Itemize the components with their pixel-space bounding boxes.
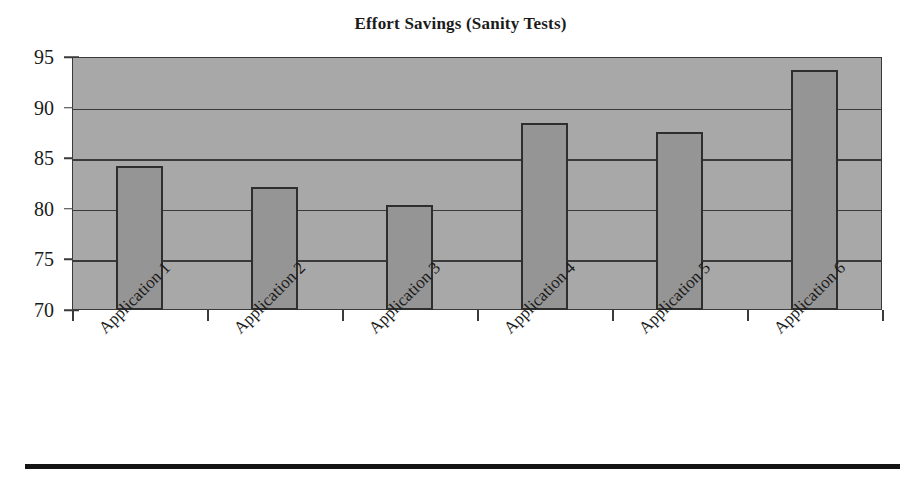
gridline-85: [73, 159, 881, 161]
bottom-divider-rule: [25, 464, 900, 469]
gridline-75: [73, 260, 881, 262]
y-tick-label-70: 70: [34, 299, 54, 322]
y-tick-label-80: 80: [34, 197, 54, 220]
y-tick-label-75: 75: [34, 248, 54, 271]
chart-title: Effort Savings (Sanity Tests): [0, 14, 921, 34]
x-tick-mark-1: [207, 310, 209, 321]
plot-area: [72, 57, 882, 310]
y-axis: 707580859095: [0, 0, 72, 485]
x-tick-mark-6: [882, 310, 884, 321]
x-tick-mark-4: [612, 310, 614, 321]
y-tick-label-85: 85: [34, 147, 54, 170]
x-tick-mark-5: [747, 310, 749, 321]
y-tick-label-90: 90: [34, 96, 54, 119]
gridline-80: [73, 210, 881, 212]
gridline-90: [73, 109, 881, 111]
x-tick-mark-2: [342, 310, 344, 321]
x-tick-mark-0: [72, 310, 74, 321]
chart-figure: Effort Savings (Sanity Tests) 7075808590…: [0, 0, 921, 485]
x-tick-mark-3: [477, 310, 479, 321]
y-tick-label-95: 95: [34, 46, 54, 69]
